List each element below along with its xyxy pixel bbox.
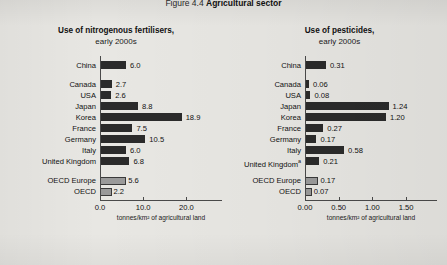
bar-china: [305, 61, 326, 69]
x-axis-line: [100, 200, 222, 201]
bar-row: France0.27: [232, 123, 447, 134]
panel-title-pesticides: Use of pesticides,: [232, 26, 447, 37]
value-label: 2.2: [114, 186, 125, 197]
panel-title-fertilisers: Use of nitrogenous fertilisers,: [0, 26, 232, 37]
bar-korea: [100, 113, 182, 121]
x-axis-line: [305, 200, 437, 201]
bar-row: Germany0.17: [232, 134, 447, 145]
panel-subtitle-pesticides: early 2000s: [232, 37, 447, 47]
x-axis-tick: [186, 197, 187, 200]
x-axis-tick: [143, 197, 144, 200]
bar-row: Japan8.8: [0, 101, 232, 112]
bar-row: Japan1.24: [232, 101, 447, 112]
value-label: 6.0: [130, 60, 141, 71]
footnote-marker: a: [298, 158, 301, 164]
figure-title: Figure 4.4 Agricultural sector: [0, 0, 447, 8]
x-axis-tick: [372, 197, 373, 200]
value-label: 0.17: [320, 134, 335, 145]
x-axis-caption: tonnes/km² of agricultural land: [285, 214, 447, 221]
bar-row: USA0.08: [232, 90, 447, 101]
bar-usa: [100, 91, 111, 99]
value-label: 0.27: [327, 123, 342, 134]
category-label-germany: Germany: [65, 134, 96, 145]
category-label-france: France: [277, 123, 301, 134]
value-label: 0.06: [313, 79, 328, 90]
bar-row: OECD0.07: [232, 186, 447, 197]
value-label: 0.21: [323, 156, 338, 167]
chart-panel-fertilisers: Use of nitrogenous fertilisers, early 20…: [0, 26, 232, 265]
category-label-oecd-europe: OECD Europe: [47, 175, 96, 186]
value-label: 0.08: [314, 90, 329, 101]
bar-row: Germany10.5: [0, 134, 232, 145]
value-label: 1.20: [390, 112, 405, 123]
category-label-canada: Canada: [274, 79, 301, 90]
zero-axis-line: [100, 56, 101, 200]
bar-germany: [100, 135, 145, 143]
value-label: 2.7: [116, 79, 127, 90]
category-label-korea: Korea: [76, 112, 96, 123]
bar-row: Italy6.0: [0, 145, 232, 156]
x-axis-tick-label: 1.50: [386, 203, 426, 213]
chart-panel-pesticides: Use of pesticides, early 2000s China0.31…: [232, 26, 447, 265]
category-label-united-kingdom: United Kingdom: [42, 156, 96, 167]
x-axis-tick-label: 10.0: [123, 203, 163, 213]
bar-row: Canada2.7: [0, 79, 232, 90]
value-label: 2.6: [115, 90, 126, 101]
bar-oecd-europe: [100, 177, 126, 185]
bar-row: United Kingdoma0.21: [232, 156, 447, 167]
category-label-china: China: [281, 60, 301, 71]
category-label-canada: Canada: [69, 79, 96, 90]
bar-canada: [100, 80, 112, 88]
x-axis-tick-label: 0.0: [80, 203, 120, 213]
bar-oecd: [100, 188, 112, 196]
category-label-usa: USA: [80, 90, 96, 101]
value-label: 0.17: [320, 175, 335, 186]
panel-subtitle-fertilisers: early 2000s: [0, 37, 232, 47]
bar-row: China0.31: [232, 60, 447, 71]
category-label-japan: Japan: [280, 101, 301, 112]
bar-row: OECD2.2: [0, 186, 232, 197]
value-label: 5.6: [128, 175, 139, 186]
category-label-korea: Korea: [281, 112, 301, 123]
x-axis-caption: tonnes/km² of agricultural land: [80, 214, 242, 221]
category-label-oecd-europe: OECD Europe: [252, 175, 301, 186]
value-label: 18.9: [186, 112, 201, 123]
value-label: 6.8: [133, 156, 144, 167]
category-label-china: China: [76, 60, 96, 71]
bar-china: [100, 61, 126, 69]
bar-oecd-europe: [305, 177, 318, 185]
value-label: 8.8: [142, 101, 153, 112]
category-label-italy: Italy: [287, 145, 301, 156]
category-label-japan: Japan: [75, 101, 96, 112]
bar-france: [305, 124, 323, 132]
plot-area-pesticides: China0.31Canada0.06USA0.08Japan1.24Korea…: [232, 54, 447, 229]
bar-united-kingdom: [100, 157, 129, 165]
value-label: 1.24: [393, 101, 408, 112]
bar-row: France7.5: [0, 123, 232, 134]
value-label: 0.58: [348, 145, 363, 156]
value-label: 0.07: [314, 186, 329, 197]
x-axis-tick: [406, 197, 407, 200]
bar-france: [100, 124, 132, 132]
value-label: 7.5: [136, 123, 147, 134]
category-label-france: France: [72, 123, 96, 134]
figure-name: Agricultural sector: [206, 0, 282, 8]
bar-korea: [305, 113, 386, 121]
bar-united-kingdom: [305, 157, 319, 165]
value-label: 6.0: [130, 145, 141, 156]
bar-japan: [305, 102, 389, 110]
bar-row: China6.0: [0, 60, 232, 71]
bar-japan: [100, 102, 138, 110]
x-axis-tick-label: 20.0: [166, 203, 206, 213]
category-label-oecd: OECD: [279, 186, 301, 197]
bar-row: Canada0.06: [232, 79, 447, 90]
bar-row: OECD Europe5.6: [0, 175, 232, 186]
bar-italy: [100, 146, 126, 154]
bar-germany: [305, 135, 316, 143]
bar-row: Italy0.58: [232, 145, 447, 156]
category-label-oecd: OECD: [74, 186, 96, 197]
figure-number: Figure 4.4: [165, 0, 203, 8]
bar-row: OECD Europe0.17: [232, 175, 447, 186]
plot-area-fertilisers: China6.0Canada2.7USA2.6Japan8.8Korea18.9…: [0, 54, 232, 229]
category-label-italy: Italy: [82, 145, 96, 156]
